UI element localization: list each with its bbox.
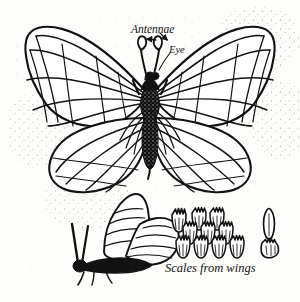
right-antenna-club [154,36,162,50]
scale-specimen-flat [261,239,278,258]
label-antennae: Antennae [130,23,174,35]
left-antenna-club [138,36,146,50]
label-scales-from-wings: Scales from wings [165,261,256,275]
illustration-canvas: Antennae Eye [0,0,300,302]
butterfly-illustration-figure: Antennae Eye [0,0,300,302]
label-eye: Eye [168,44,185,55]
